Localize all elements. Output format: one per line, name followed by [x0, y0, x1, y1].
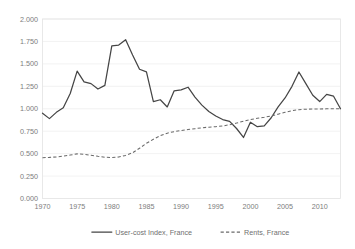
chart-legend: User-cost Index, FranceRents, France — [92, 228, 289, 237]
legend-label-rents: Rents, France — [244, 228, 289, 237]
x-tick-label: 1985 — [138, 202, 154, 211]
x-tick-label: 1990 — [173, 202, 189, 211]
series-line-user-cost-index — [43, 40, 341, 138]
x-tick-label: 2010 — [312, 202, 328, 211]
y-axis-tick-labels: 0.0000.2500.5000.7501.0001.2501.5001.750… — [20, 15, 38, 204]
x-tick-label: 1980 — [104, 202, 120, 211]
data-series-group — [43, 40, 341, 158]
x-axis-tick-labels: 197019751980198519901995200020052010 — [35, 202, 328, 211]
y-tick-label: 1.000 — [20, 104, 38, 113]
y-tick-label: 0.750 — [20, 127, 38, 136]
gridlines — [43, 19, 341, 176]
series-line-rents — [43, 109, 341, 158]
line-chart: 0.0000.2500.5000.7501.0001.2501.5001.750… — [0, 0, 355, 249]
legend-label-user-cost-index: User-cost Index, France — [115, 228, 192, 237]
y-tick-label: 1.250 — [20, 82, 38, 91]
x-tick-label: 2005 — [277, 202, 293, 211]
y-tick-label: 2.000 — [20, 15, 38, 24]
x-tick-label: 1970 — [35, 202, 51, 211]
y-tick-label: 0.250 — [20, 172, 38, 181]
y-tick-label: 1.750 — [20, 37, 38, 46]
x-tick-label: 1995 — [208, 202, 224, 211]
x-tick-label: 1975 — [69, 202, 85, 211]
y-tick-label: 0.500 — [20, 149, 38, 158]
y-tick-label: 1.500 — [20, 59, 38, 68]
chart-container: 0.0000.2500.5000.7501.0001.2501.5001.750… — [0, 0, 355, 249]
x-tick-label: 2000 — [242, 202, 258, 211]
